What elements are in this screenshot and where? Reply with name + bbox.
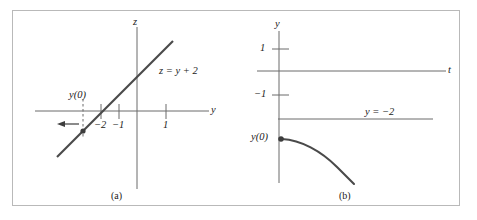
panel-b-solution-curve: [282, 139, 354, 184]
panel-b-initial-dot: [278, 136, 284, 142]
panel-a-y-axis-label: z: [133, 17, 137, 28]
panel-b-caption: (b): [339, 191, 351, 201]
panel-b-t-axis-label: t: [448, 65, 451, 76]
figure-frame: y z −2 −1 1 y(0) z = y + 2 (a): [12, 10, 460, 206]
panel-a-initial-label: y(0): [69, 90, 86, 101]
panel-a: y z −2 −1 1 y(0) z = y + 2 (a): [13, 11, 237, 207]
panel-a-x-axis-label: y: [211, 105, 216, 116]
panel-a-state-dot: [80, 128, 85, 133]
panel-a-line-equation-label: z = y + 2: [159, 66, 198, 77]
panel-b-plot: [237, 11, 461, 207]
panel-b-asymptote-label: y = −2: [365, 107, 394, 118]
figure-root: y z −2 −1 1 y(0) z = y + 2 (a): [0, 0, 477, 220]
panel-a-flow-arrow-icon: [57, 121, 79, 127]
panel-a-tick-label--2: −2: [94, 120, 106, 131]
panel-a-plot: [13, 11, 237, 207]
panel-b-tick-label--1: −1: [254, 89, 266, 100]
panel-a-caption: (a): [111, 191, 122, 201]
panel-b-tick-label-1: 1: [260, 43, 265, 54]
panel-b-initial-label: y(0): [251, 132, 268, 143]
panel-a-tick-label-1: 1: [163, 120, 168, 131]
panel-b-y-axis-label: y: [275, 19, 280, 30]
panel-a-tick-label--1: −1: [112, 120, 124, 131]
panel-b: y t 1 −1 y = −2 y(0) (b): [237, 11, 461, 207]
